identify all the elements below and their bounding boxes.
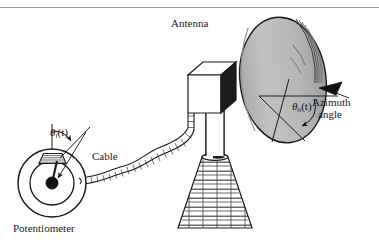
motor-housing [188, 62, 236, 113]
azimuth-label-line2: angle [312, 108, 351, 120]
output-angle-symbol: θo(t) [292, 100, 312, 114]
azimuth-angle-label: Azimuth angle [312, 96, 351, 120]
antenna-label: Antenna [171, 17, 208, 29]
theta-out-arg: (t) [301, 100, 311, 112]
antenna-azimuth-diagram [0, 0, 379, 249]
theta-in-arg: (t) [58, 126, 68, 138]
cable [79, 113, 194, 184]
figure-container: Antenna Cable Potentiometer Azimuth angl… [0, 0, 379, 249]
azimuth-label-line1: Azimuth [312, 96, 351, 108]
pedestal [178, 154, 252, 228]
potentiometer-label: Potentiometer [13, 222, 75, 234]
input-angle-symbol: θi(t) [50, 126, 68, 140]
cable-label: Cable [92, 150, 118, 162]
potentiometer [18, 149, 86, 217]
antenna-dish [233, 12, 334, 148]
